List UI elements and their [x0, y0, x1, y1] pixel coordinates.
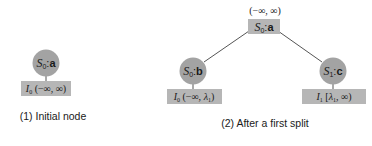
initial-interval-label: I0 (−∞, ∞) [26, 84, 66, 95]
right-interval-label: I1 [λ1, ∞) [317, 92, 352, 103]
panel2-caption: (2) After a first split [221, 118, 309, 129]
root-interval-label: (−∞, ∞) [249, 5, 281, 16]
edge-root-to-right [278, 31, 322, 62]
edge-root-to-left [204, 31, 249, 62]
panel1-caption: (1) Initial node [20, 111, 87, 122]
left-child-label: S0:b [183, 65, 203, 78]
right-child-label: S1:c [323, 65, 342, 78]
root-node-label: S0:a [254, 21, 273, 34]
left-interval-label: I0 (−∞, λ1) [174, 92, 215, 103]
initial-node-label: S0:a [36, 57, 55, 70]
